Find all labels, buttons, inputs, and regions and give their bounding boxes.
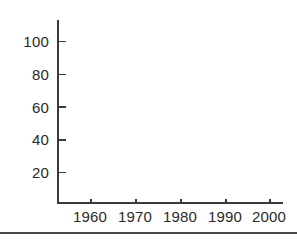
footer-divider — [0, 232, 297, 234]
x-tick-mark-1960 — [90, 199, 92, 203]
plot-area — [59, 20, 283, 202]
x-tick-mark-1990 — [225, 199, 227, 203]
y-tick-label-40: 40 — [9, 132, 49, 147]
y-tick-label-20-wrap: 20 — [9, 165, 49, 180]
x-tick-mark-1970 — [135, 199, 137, 203]
x-tick-label-2000: 2000 — [239, 208, 297, 225]
x-tick-mark-1980 — [180, 199, 182, 203]
y-tick-mark-40 — [59, 139, 66, 141]
y-tick-mark-60 — [59, 106, 66, 108]
y-tick-label-60-wrap: 60 — [9, 100, 49, 115]
chart-figure: 100 80 60 40 20 1960 1970 1980 1990 2000 — [0, 0, 297, 241]
y-tick-label-100-wrap: 100 — [9, 34, 49, 49]
y-tick-label-80-wrap: 80 — [9, 67, 49, 82]
x-tick-mark-2000 — [269, 199, 271, 203]
x-axis-line — [57, 202, 283, 204]
y-axis-line — [57, 20, 59, 204]
y-tick-label-100: 100 — [9, 34, 49, 49]
y-tick-mark-20 — [59, 172, 66, 174]
y-tick-label-40-wrap: 40 — [9, 132, 49, 147]
y-tick-mark-100 — [59, 41, 66, 43]
y-tick-mark-80 — [59, 74, 66, 76]
y-tick-label-60: 60 — [9, 100, 49, 115]
y-tick-label-20: 20 — [9, 165, 49, 180]
y-tick-label-80: 80 — [9, 67, 49, 82]
